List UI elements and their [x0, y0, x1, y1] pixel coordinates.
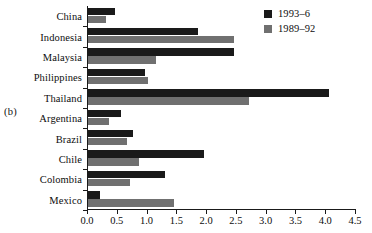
bar-indonesia-series-2 [88, 36, 234, 43]
category-label-china: China [56, 11, 82, 22]
bar-colombia-series-2 [88, 179, 130, 186]
y-axis-tick [83, 88, 87, 89]
category-row: Thailand [87, 88, 355, 108]
bar-argentina-series-2 [88, 118, 109, 125]
bar-malaysia-series-1 [88, 48, 234, 55]
category-row: Brazil [87, 128, 355, 148]
category-label-indonesia: Indonesia [40, 31, 82, 42]
category-row: Malaysia [87, 47, 355, 67]
category-row: Colombia [87, 169, 355, 189]
y-axis-tick [83, 190, 87, 191]
bar-malaysia-series-2 [88, 56, 156, 63]
legend-swatch-1993-6 [264, 10, 272, 18]
bar-mexico-series-2 [88, 199, 174, 206]
category-label-argentina: Argentina [39, 113, 82, 124]
bar-china-series-1 [88, 8, 115, 15]
bar-thailand-series-1 [88, 89, 329, 96]
bar-chile-series-2 [88, 158, 139, 165]
x-axis-tick [117, 210, 118, 214]
bar-philippines-series-2 [88, 77, 148, 84]
bar-brazil-series-2 [88, 138, 127, 145]
legend-item: 1989–92 [264, 22, 315, 35]
legend-item: 1993–6 [264, 7, 315, 20]
panel-label: (b) [4, 106, 17, 117]
y-axis-tick [83, 128, 87, 129]
bar-colombia-series-1 [88, 171, 165, 178]
bar-chart: (b) ChinaIndonesiaMalaysiaPhilippinesTha… [0, 0, 372, 233]
bar-philippines-series-1 [88, 69, 145, 76]
x-axis-tick [325, 210, 326, 214]
y-axis-tick [83, 108, 87, 109]
y-axis-tick [83, 26, 87, 27]
category-label-chile: Chile [59, 153, 82, 164]
x-axis-tick [87, 210, 88, 214]
x-axis-tick [236, 210, 237, 214]
bar-thailand-series-2 [88, 97, 249, 104]
x-axis-tick-label: 2.5 [229, 215, 242, 226]
legend-swatch-1989-92 [264, 25, 272, 33]
legend-label: 1989–92 [278, 23, 315, 34]
bar-argentina-series-1 [88, 110, 121, 117]
x-axis-tick [355, 210, 356, 214]
category-row: Philippines [87, 67, 355, 87]
chart-legend: 1993–61989–92 [264, 7, 315, 37]
category-label-brazil: Brazil [56, 133, 82, 144]
bar-brazil-series-1 [88, 130, 133, 137]
x-axis-tick [176, 210, 177, 214]
x-axis-tick [295, 210, 296, 214]
category-row: Mexico [87, 190, 355, 210]
x-axis-tick-label: 1.0 [140, 215, 153, 226]
x-axis-tick-label: 3.5 [289, 215, 302, 226]
bar-china-series-2 [88, 16, 106, 23]
x-axis-tick-label: 1.5 [170, 215, 183, 226]
x-axis-tick [266, 210, 267, 214]
category-row: Argentina [87, 108, 355, 128]
y-axis-tick [83, 169, 87, 170]
category-label-malaysia: Malaysia [43, 51, 82, 62]
legend-label: 1993–6 [278, 8, 310, 19]
y-axis-tick [83, 67, 87, 68]
x-axis-tick-label: 4.0 [319, 215, 332, 226]
category-row: Chile [87, 149, 355, 169]
bar-mexico-series-1 [88, 191, 100, 198]
x-axis-tick [147, 210, 148, 214]
y-axis-tick [83, 47, 87, 48]
x-axis-tick-label: 2.0 [200, 215, 213, 226]
x-axis-tick-label: 3.0 [259, 215, 272, 226]
bar-indonesia-series-1 [88, 28, 198, 35]
category-label-mexico: Mexico [49, 194, 82, 205]
x-axis-tick-label: 0.5 [110, 215, 123, 226]
bar-chile-series-1 [88, 150, 204, 157]
category-label-philippines: Philippines [34, 72, 82, 83]
y-axis-tick [83, 149, 87, 150]
x-axis-tick-label: 0.0 [80, 215, 93, 226]
category-label-colombia: Colombia [40, 174, 82, 185]
category-label-thailand: Thailand [44, 92, 82, 103]
x-axis-tick [206, 210, 207, 214]
x-axis-tick-label: 4.5 [348, 215, 361, 226]
